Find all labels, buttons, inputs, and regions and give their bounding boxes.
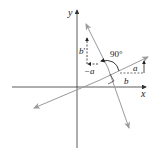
- angle-label: 90°: [110, 49, 123, 59]
- perpendicular-lines-diagram: y x a b b' −a 90°: [0, 0, 156, 152]
- label-b-prime: b': [79, 46, 86, 56]
- rotation-arc: [101, 60, 119, 71]
- x-axis-label: x: [140, 88, 146, 99]
- perpendicular-line: [86, 24, 108, 68]
- label-a: a: [133, 63, 138, 73]
- y-axis-label: y: [67, 7, 73, 18]
- original-line-lower: [34, 80, 100, 108]
- label-neg-a: −a: [84, 66, 95, 76]
- label-b: b: [124, 76, 129, 86]
